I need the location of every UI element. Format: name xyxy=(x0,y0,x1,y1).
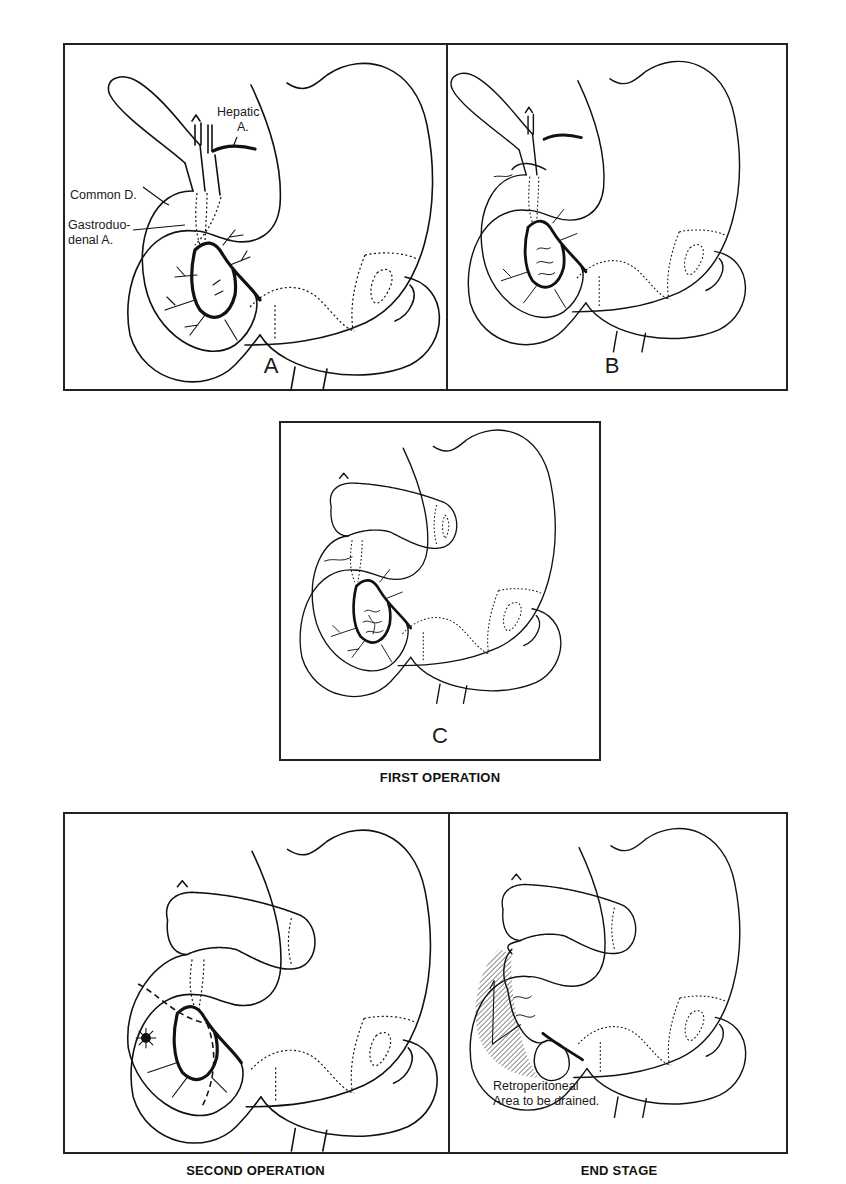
panel-second-operation xyxy=(65,814,447,1152)
panel-a-drawing xyxy=(65,45,445,389)
end-stage-caption: END STAGE xyxy=(450,1163,788,1178)
gastroduodenal-artery-label: Gastroduo- denal A. xyxy=(68,218,131,248)
common-duct-label: Common D. xyxy=(70,188,137,203)
panel-c-drawing xyxy=(281,423,599,759)
panel-end-stage: Retroperitoneal Area to be drained. xyxy=(450,814,786,1152)
panel-b-letter: B xyxy=(592,353,632,379)
retroperitoneal-hatched-area xyxy=(476,949,539,1077)
retroperitoneal-label: Retroperitoneal Area to be drained. xyxy=(493,1079,599,1109)
first-operation-caption: FIRST OPERATION xyxy=(279,770,601,785)
panel-second-operation-drawing xyxy=(65,814,447,1152)
panel-b: B xyxy=(448,45,786,389)
panel-c-letter: C xyxy=(420,723,460,749)
panel-a: Hepatic A. Common D. Gastroduo- denal A.… xyxy=(65,45,445,389)
panel-a-letter: A xyxy=(251,353,291,379)
panel-c: C xyxy=(281,423,599,759)
panel-b-drawing xyxy=(448,45,786,389)
second-operation-caption: SECOND OPERATION xyxy=(63,1163,448,1178)
bleeding-site-icon xyxy=(136,1028,156,1048)
hepatic-artery-label: Hepatic A. xyxy=(217,105,259,135)
